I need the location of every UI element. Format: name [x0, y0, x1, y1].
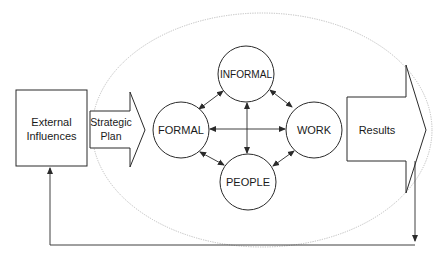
arrow-people-formal — [200, 152, 224, 165]
strategic-plan-label-line1: Strategic — [90, 116, 131, 128]
arrow-work-people — [273, 151, 294, 166]
results-arrow: Results — [347, 65, 426, 193]
formal-label: FORMAL — [158, 124, 204, 136]
external-influences-label-line1: External — [31, 116, 71, 128]
node-people: PEOPLE — [220, 154, 276, 210]
arrow-formal-informal — [199, 91, 223, 109]
strategic-plan-label-line2: Plan — [100, 130, 121, 142]
organization-diagram: External Influences Strategic Plan Resul… — [0, 0, 439, 259]
informal-label: INFORMAL — [220, 68, 272, 80]
work-label: WORK — [297, 124, 332, 136]
node-informal: INFORMAL — [218, 46, 274, 102]
external-influences-box: External Influences — [16, 90, 87, 166]
results-label: Results — [359, 124, 396, 136]
strategic-plan-arrow: Strategic Plan — [90, 92, 145, 167]
node-formal: FORMAL — [153, 102, 209, 158]
node-work: WORK — [286, 102, 342, 158]
external-influences-label-line2: Influences — [26, 130, 77, 142]
people-label: PEOPLE — [226, 176, 270, 188]
arrow-informal-work — [270, 90, 292, 107]
